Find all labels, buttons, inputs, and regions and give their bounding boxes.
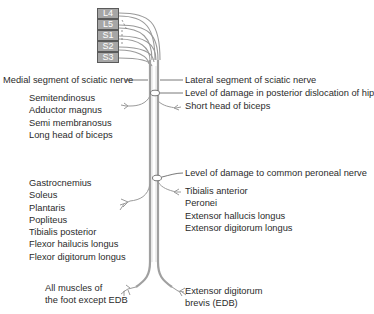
root-l4: L4 [97, 8, 119, 19]
foot-lateral-label: Extensor digitorum brevis (EDB) [185, 285, 263, 310]
lateral-segment-label: Lateral segment of sciatic nerve [185, 74, 316, 86]
peroneal-muscle-list: Tibialis anterior Peronei Extensor hallu… [185, 185, 293, 234]
root-l5: L5 [97, 19, 119, 30]
muscle-item: Plantaris [29, 202, 126, 214]
muscle-item: Peronei [185, 197, 293, 209]
nerve-branches [120, 96, 186, 296]
foot-medial-label: All muscles of the foot except EDB [45, 282, 128, 307]
root-s2: S2 [97, 41, 119, 52]
peroneal-damage-label: Level of damage to common peroneal nerve [185, 167, 367, 179]
label-line: All muscles of [45, 282, 128, 294]
muscle-item: Tibialis posterior [29, 226, 126, 238]
label-line: Extensor digitorum [185, 285, 263, 297]
hip-damage-label: Level of damage in posterior dislocation… [185, 87, 374, 99]
muscle-item: Tibialis anterior [185, 185, 293, 197]
medial-segment-label: Medial segment of sciatic nerve [3, 74, 133, 86]
root-s1: S1 [97, 30, 119, 41]
muscle-item: Soleus [29, 189, 126, 201]
muscle-item: Extensor hallucis longus [185, 210, 293, 222]
muscle-item: Long head of biceps [29, 129, 113, 141]
thigh-muscle-list: Semitendinosus Adductor magnus Semi memb… [29, 92, 113, 141]
short-head-biceps-label: Short head of biceps [185, 100, 270, 112]
muscle-item: Semitendinosus [29, 92, 113, 104]
hip-damage-marker [151, 90, 160, 96]
muscle-item: Flexor hailucis longus [29, 238, 126, 250]
muscle-item: Adductor magnus [29, 104, 113, 116]
root-s3: S3 [97, 52, 119, 63]
label-line: the foot except EDB [45, 294, 128, 306]
muscle-item: Semi membranosus [29, 117, 113, 129]
label-line: brevis (EDB) [185, 297, 263, 309]
muscle-item: Extensor digitorum longus [185, 222, 293, 234]
muscle-item: Gastrocnemius [29, 177, 126, 189]
tibial-muscle-list: Gastrocnemius Soleus Plantaris Popliteus… [29, 177, 126, 263]
muscle-item: Popliteus [29, 214, 126, 226]
peroneal-damage-marker [153, 175, 162, 181]
nerve-root-arcs [119, 13, 160, 66]
muscle-item: Flexor digitorum longus [29, 251, 126, 263]
